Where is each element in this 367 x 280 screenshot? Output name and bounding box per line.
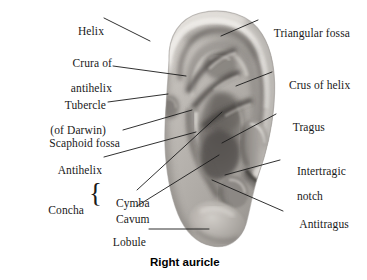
label-antihelix: Antihelix [2, 151, 102, 189]
label-antihelix-text: Antihelix [58, 164, 102, 176]
figure-caption: Right auricle [150, 256, 220, 268]
label-lobule-text: Lobule [113, 236, 146, 248]
label-scaphoid-fossa-text: Scaphoid fossa [49, 137, 120, 149]
label-antitragus-text: Antitragus [299, 218, 349, 230]
label-helix-text: Helix [78, 25, 104, 37]
label-crus-of-helix-text: Crus of helix [289, 79, 350, 91]
label-crus-of-helix: Crus of helix [277, 66, 350, 104]
label-antitragus: Antitragus [288, 205, 349, 243]
label-tragus-text: Tragus [293, 121, 325, 133]
label-triangular-fossa: Triangular fossa [262, 14, 350, 52]
label-lobule: Lobule [60, 223, 146, 261]
label-tragus: Tragus [281, 108, 325, 146]
concha-brace-glyph: { [89, 178, 102, 208]
label-tubercle-line1: Tubercle [65, 99, 106, 111]
right-auricle-figure: Helix Crura of antihelix Tubercle (of Da… [0, 0, 367, 280]
concha-brace: { [89, 180, 102, 207]
label-triangular-fossa-text: Triangular fossa [274, 27, 350, 39]
label-crura-line1: Crura of [73, 57, 112, 69]
label-intertragic-notch-line1: Intertragic [297, 165, 346, 177]
label-intertragic-notch-line2: notch [297, 190, 323, 202]
label-concha-text: Concha [48, 204, 84, 216]
